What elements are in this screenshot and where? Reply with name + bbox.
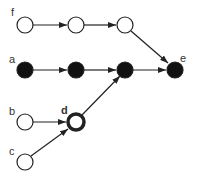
node-c bbox=[17, 154, 33, 170]
node-e bbox=[167, 62, 183, 78]
node-b bbox=[17, 114, 33, 130]
node-a3 bbox=[117, 62, 133, 78]
node-a bbox=[17, 62, 33, 78]
node-d bbox=[68, 114, 84, 130]
edge-f3-e bbox=[131, 31, 168, 63]
graph-svg bbox=[0, 0, 197, 181]
label-c: c bbox=[9, 146, 15, 157]
node-a2 bbox=[68, 62, 84, 78]
label-b: b bbox=[9, 106, 15, 117]
edge-d-a3 bbox=[82, 76, 120, 115]
edge-c-d bbox=[31, 129, 68, 156]
node-f2 bbox=[68, 17, 84, 33]
graph-diagram: f a e b d c bbox=[0, 0, 197, 181]
node-f bbox=[17, 17, 33, 33]
label-e: e bbox=[180, 53, 186, 64]
node-f3 bbox=[117, 17, 133, 33]
label-d: d bbox=[61, 105, 68, 116]
label-a: a bbox=[9, 54, 15, 65]
label-f: f bbox=[11, 7, 14, 18]
